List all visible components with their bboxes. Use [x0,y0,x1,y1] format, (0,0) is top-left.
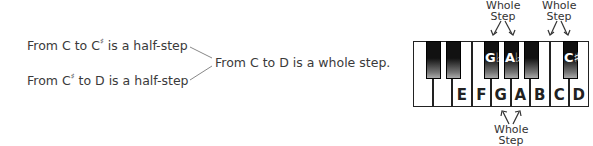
black-key-g-flat: G♭ [484,41,499,79]
statement-csharp-to-d: From C♯ to D is a half-step [27,73,189,88]
black-key [426,41,441,79]
key-label: C♯ [564,50,577,65]
key-label: G♭ [485,50,498,65]
statement-text: From C [27,73,71,88]
label-line: Step [486,11,520,22]
key-label: C [551,86,569,104]
black-key [446,41,461,79]
whole-step-label-bottom: Whole Step [494,124,528,146]
key-label: F [473,86,491,104]
key-label: A♭ [505,50,518,65]
black-key [524,41,539,79]
key-label: E [453,86,471,104]
black-key-c-sharp: C♯ [563,41,578,79]
label-line: Step [494,135,528,146]
statement-c-to-csharp: From C to C♯ is a half-step [27,38,188,53]
statement-text: is a half-step [104,38,188,53]
statement-text: From C to C [27,38,100,53]
statement-text: to D is a half-step [75,73,189,88]
sharp-symbol: ♯ [100,37,104,46]
key-label: D [570,86,588,104]
piano-keyboard: E F G A B C D G♭ A♭ C♯ [413,41,593,108]
black-key-a-flat: A♭ [504,41,519,79]
sharp-symbol: ♯ [71,72,75,81]
key-label: G [492,86,510,104]
whole-step-label-top-left: Whole Step [486,0,520,22]
whole-step-label-top-right: Whole Step [542,0,576,22]
key-label: B [531,86,549,104]
label-line: Step [542,11,576,22]
statement-c-to-d-whole-step: From C to D is a whole step. [215,55,390,70]
key-label: A [512,86,530,104]
